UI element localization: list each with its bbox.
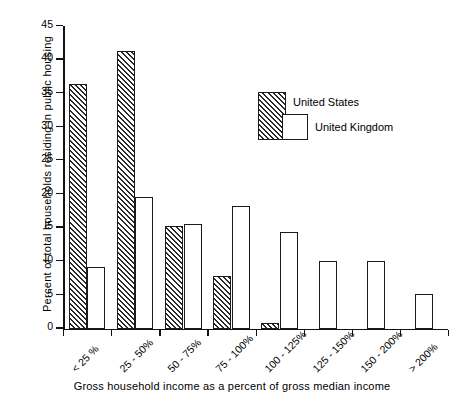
- y-axis-tick: I0: [56, 260, 63, 261]
- bar-united-kingdom: [319, 261, 337, 328]
- x-axis-title: Gross household income as a percent of g…: [0, 380, 464, 392]
- y-axis-tick: 20: [56, 193, 63, 194]
- x-axis-tick-label: 25 - 50%: [117, 336, 155, 374]
- bar-united-kingdom: [232, 206, 250, 328]
- y-axis-tick: I5: [56, 226, 63, 227]
- bar-united-kingdom: [367, 261, 385, 328]
- y-axis-tick: 40: [56, 58, 63, 59]
- y-axis-tick: 30: [56, 126, 63, 127]
- y-axis-tick-label: 40: [41, 51, 53, 63]
- x-axis-tick: [111, 330, 112, 336]
- bar-united-kingdom: [184, 224, 202, 329]
- bar-united-states: [213, 276, 231, 328]
- x-axis-tick: [159, 330, 160, 336]
- bar-united-states: [165, 226, 183, 328]
- chart-legend: United States United Kingdom: [258, 92, 438, 144]
- y-axis-tick: 35: [56, 92, 63, 93]
- y-axis-tick: 5: [56, 294, 63, 295]
- y-axis-tick: 45: [56, 25, 63, 26]
- legend-swatch-united-kingdom: [282, 114, 308, 140]
- y-axis-tick-label: I0: [44, 253, 53, 265]
- y-axis-tick: 0: [56, 327, 63, 328]
- y-axis-tick-label: 35: [41, 85, 53, 97]
- bar-united-kingdom: [415, 294, 433, 328]
- chart-figure: Percent of total households residing in …: [0, 0, 464, 403]
- legend-label-united-states: United States: [293, 96, 359, 108]
- x-axis-tick-label: 100 - 125%: [262, 328, 308, 374]
- bar-united-states: [117, 51, 135, 329]
- y-axis-tick-label: 30: [41, 119, 53, 131]
- y-axis-tick-label: 0: [47, 320, 53, 332]
- x-axis-tick: [448, 330, 449, 336]
- y-axis-tick-label: 5: [47, 287, 53, 299]
- y-axis-tick-label: I5: [44, 219, 53, 231]
- y-axis-tick: 25: [56, 159, 63, 160]
- x-axis-tick-label: 125 - 150%: [310, 328, 356, 374]
- bar-united-kingdom: [135, 197, 153, 328]
- y-axis-line: [63, 26, 65, 330]
- plot-area: 05I0I5202530354045 < 25 %25 - 50%50 - 75…: [63, 26, 448, 330]
- bar-united-kingdom: [87, 267, 105, 329]
- x-axis-tick-label: 75 - 100%: [213, 332, 255, 374]
- x-axis-tick: [207, 330, 208, 336]
- bar-united-states: [261, 323, 279, 328]
- y-axis-tick-label: 45: [41, 18, 53, 30]
- x-axis-tick-label: < 25 %: [69, 343, 101, 375]
- x-axis-tick-label: 50 - 75%: [165, 336, 203, 374]
- x-axis-tick-label: > 200%: [406, 341, 440, 375]
- y-axis-tick-label: 20: [41, 186, 53, 198]
- y-axis-tick-label: 25: [41, 152, 53, 164]
- x-axis-tick: [256, 330, 257, 336]
- legend-label-united-kingdom: United Kingdom: [315, 121, 393, 133]
- x-axis-tick-label: 150 - 200%: [358, 328, 404, 374]
- bar-united-kingdom: [280, 232, 298, 328]
- bar-united-states: [69, 84, 87, 329]
- x-axis-tick: [63, 330, 64, 336]
